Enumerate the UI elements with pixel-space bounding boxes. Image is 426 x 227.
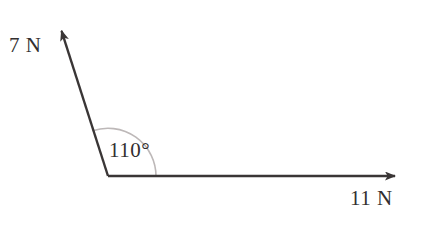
force-label-11n: 11 N: [350, 188, 393, 209]
force-label-7n: 7 N: [9, 35, 41, 56]
vector-diagram-figure: 7 N 110° 11 N: [0, 0, 426, 227]
force-vector-7n-arrow: [62, 31, 109, 176]
angle-label-110: 110°: [109, 140, 150, 161]
